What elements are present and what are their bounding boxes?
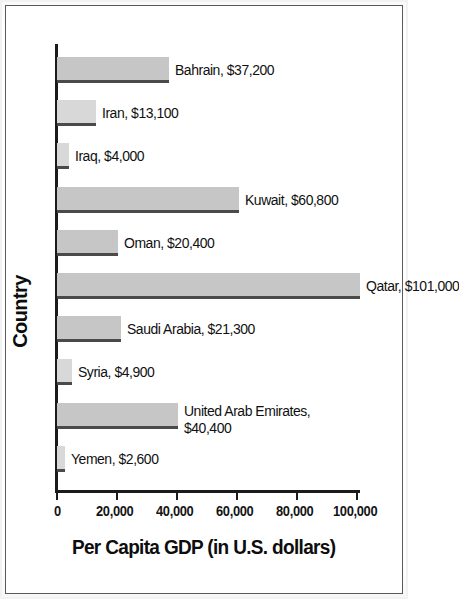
- x-axis-title-text: Per Capita GDP (in U.S. dollars): [72, 536, 335, 559]
- x-axis-tick: [116, 491, 118, 500]
- bar: [57, 187, 239, 213]
- bar-label: Qatar, $101,000: [366, 277, 459, 294]
- x-axis-title: Per Capita GDP (in U.S. dollars): [0, 536, 408, 559]
- x-axis-tick-label: 80,000: [276, 502, 313, 519]
- x-axis-tick: [296, 491, 298, 500]
- x-axis-tick-label: 40,000: [156, 502, 193, 519]
- x-axis-tick: [356, 491, 358, 500]
- bar: [57, 316, 121, 342]
- bar-label: Bahrain, $37,200: [175, 61, 274, 78]
- bar: [57, 403, 178, 429]
- bar: [57, 273, 360, 299]
- bar: [57, 230, 118, 256]
- x-axis-tick-label: 60,000: [216, 502, 253, 519]
- bar: [57, 446, 65, 472]
- bar-label: Syria, $4,900: [78, 363, 154, 380]
- x-axis-tick-label: 20,000: [96, 502, 133, 519]
- x-axis-tick: [176, 491, 178, 500]
- bar-label: Oman, $20,400: [124, 234, 214, 251]
- x-axis-tick-label: 100,000: [333, 502, 377, 519]
- bar-label: Yemen, $2,600: [71, 450, 158, 467]
- bar: [57, 100, 96, 126]
- x-axis-tick: [236, 491, 238, 500]
- x-axis-tick: [56, 491, 58, 500]
- bar-label: Iran, $13,100: [102, 104, 178, 121]
- bar-label: Iraq, $4,000: [75, 147, 144, 164]
- bar-label-line-1: United Arab Emirates,: [184, 402, 310, 419]
- x-axis-tick-label: 0: [54, 502, 61, 519]
- bar: [57, 143, 69, 169]
- y-axis-title: Country: [9, 275, 32, 347]
- bar-label: Kuwait, $60,800: [245, 191, 338, 208]
- x-axis-line: [55, 490, 360, 493]
- bar: [57, 359, 72, 385]
- bar-label-line-2: $40,400: [184, 419, 310, 436]
- bar-label: Saudi Arabia, $21,300: [127, 320, 255, 337]
- bar-label: United Arab Emirates,$40,400: [184, 402, 310, 436]
- bar: [57, 57, 169, 83]
